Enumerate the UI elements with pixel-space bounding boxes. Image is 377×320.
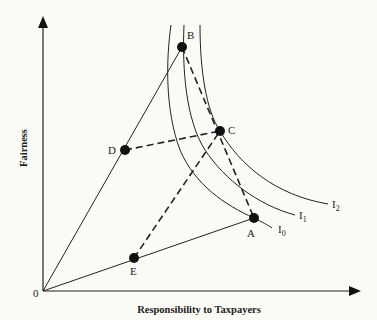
curve-label-i0: I0 bbox=[278, 223, 286, 238]
curve-label-i1: I1 bbox=[299, 209, 307, 224]
ray-0-b bbox=[43, 47, 182, 291]
indifference-curve-i2 bbox=[200, 25, 328, 204]
indifference-curve-i1 bbox=[184, 25, 295, 215]
origin-label: 0 bbox=[33, 287, 39, 299]
point-label-c: C bbox=[228, 124, 235, 136]
x-axis-title: Responsibility to Taxpayers bbox=[137, 304, 261, 315]
point-label-e: E bbox=[130, 265, 137, 277]
point-e bbox=[129, 253, 139, 263]
diagram-container: B C D A E I0 I1 I2 0 Responsibility to T… bbox=[0, 0, 377, 320]
point-label-a: A bbox=[247, 227, 255, 239]
point-d bbox=[120, 145, 130, 155]
point-label-b: B bbox=[187, 29, 194, 41]
dashed-line-e-c bbox=[134, 131, 220, 258]
dashed-line-d-c bbox=[125, 131, 220, 150]
point-label-d: D bbox=[108, 144, 116, 156]
ray-0-a bbox=[43, 218, 254, 291]
curve-label-i2: I2 bbox=[332, 198, 340, 213]
y-axis-arrow-icon bbox=[38, 16, 48, 28]
point-a bbox=[249, 213, 259, 223]
x-axis-arrow-icon bbox=[349, 286, 361, 296]
point-b bbox=[177, 42, 187, 52]
indifference-diagram: B C D A E I0 I1 I2 0 Responsibility to T… bbox=[0, 0, 377, 320]
point-c bbox=[215, 126, 225, 136]
y-axis-title: Fairness bbox=[18, 129, 29, 167]
